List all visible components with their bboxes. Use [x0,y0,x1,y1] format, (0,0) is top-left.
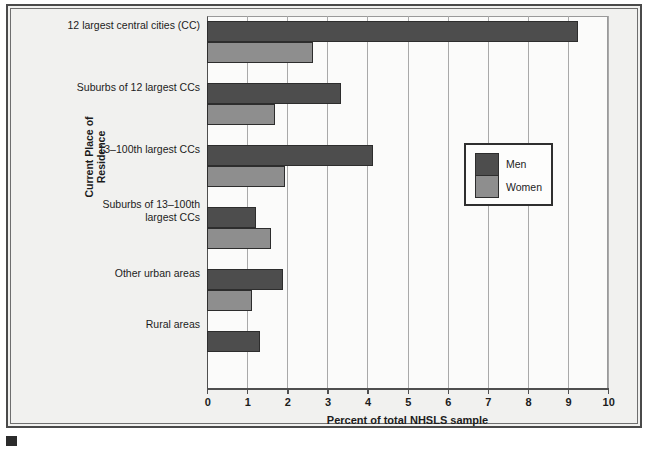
category-label: Suburbs of 13–100thlargest CCs [30,198,200,224]
x-axis-tick [608,388,609,394]
gridline [568,16,569,388]
x-axis-tick-label: 6 [445,396,451,408]
x-axis-tick-label: 10 [603,396,615,408]
legend-swatch-women [476,176,498,198]
bar-women [207,290,252,311]
bar-women [207,42,313,63]
category-label: Rural areas [30,318,200,331]
category-label: 12 largest central cities (CC) [30,19,200,32]
category-label: Other urban areas [30,267,200,280]
category-label-line: Suburbs of 13–100th [30,198,200,211]
figure-container: Current Place of Residence 12 largest ce… [0,0,650,452]
gridline [367,16,368,388]
gridline [448,16,449,388]
legend-box: Men Women [464,143,553,206]
x-axis-tick [488,388,489,394]
bar-women [207,104,275,125]
x-axis-title: Percent of total NHSLS sample [207,414,608,426]
legend-swatch-men [476,154,498,176]
x-axis-tick-label: 4 [365,396,371,408]
category-label-line: Other urban areas [30,267,200,280]
x-axis-tick [448,388,449,394]
category-label-line: Rural areas [30,318,200,331]
gridline [287,16,288,388]
category-label-line: 12 largest central cities (CC) [30,19,200,32]
bar-women [207,228,271,249]
x-axis-tick-label: 1 [245,396,251,408]
legend-label-women: Women [506,181,542,193]
category-label-group: 12 largest central cities (CC)Suburbs of… [28,0,200,372]
bar-men [207,207,256,228]
x-axis-tick-label: 0 [205,396,211,408]
x-axis-tick [287,388,288,394]
category-label: 13–100th largest CCs [30,143,200,156]
gridline [327,16,328,388]
x-axis-tick-label: 2 [285,396,291,408]
x-axis-tick [528,388,529,394]
category-label: Suburbs of 12 largest CCs [30,81,200,94]
x-axis-tick [327,388,328,394]
legend-swatch-stack [475,153,499,198]
x-axis-tick-label: 9 [566,396,572,408]
gridline [608,16,609,388]
page-marker [6,436,17,446]
x-axis-tick-label: 7 [485,396,491,408]
gridline [408,16,409,388]
x-axis-tick [367,388,368,394]
x-axis-tick [247,388,248,394]
x-axis-tick-label: 3 [325,396,331,408]
category-label-line: Suburbs of 12 largest CCs [30,81,200,94]
bar-men [207,269,283,290]
bar-men [207,83,341,104]
bar-men [207,21,578,42]
bar-men [207,145,373,166]
x-axis-tick [207,388,208,394]
bar-men [207,331,260,352]
category-label-line: largest CCs [30,211,200,224]
bar-women [207,166,285,187]
x-axis-tick [408,388,409,394]
x-axis-tick [568,388,569,394]
x-axis-tick-label: 5 [405,396,411,408]
legend-label-men: Men [506,158,526,170]
category-label-line: 13–100th largest CCs [30,143,200,156]
x-axis-tick-label: 8 [525,396,531,408]
